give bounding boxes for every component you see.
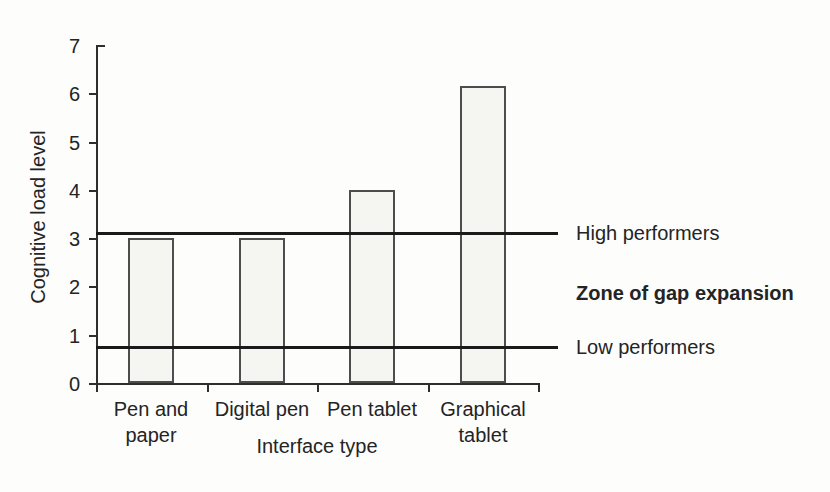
ref-line-low-performers [96, 346, 558, 349]
y-tick-4 [89, 190, 96, 192]
y-tick-label-3: 3 [44, 226, 80, 252]
ref-line-high-performers [96, 232, 558, 235]
plot-area: 01234567Pen and paperDigital penPen tabl… [0, 0, 830, 492]
y-tick-0 [89, 383, 96, 385]
x-tick-0 [96, 385, 98, 392]
y-tick-label-0: 0 [44, 371, 80, 397]
y-tick-3 [89, 238, 96, 240]
y-tick-label-5: 5 [44, 130, 80, 156]
y-tick-2 [89, 286, 96, 288]
cognitive-load-bar-chart: Cognitive load level 01234567Pen and pap… [0, 0, 830, 492]
y-tick-7 [98, 45, 105, 47]
ref-line-label-high-performers: High performers [576, 220, 816, 246]
bar-digital-pen [239, 238, 285, 383]
x-axis-title: Interface type [96, 433, 538, 459]
y-tick-6 [89, 93, 96, 95]
x-tick-2 [317, 385, 319, 392]
annotation-zone-of-gap-expansion: Zone of gap expansion [576, 280, 826, 306]
x-tick-4 [538, 385, 540, 392]
bar-pen-and-paper [128, 238, 174, 383]
x-tick-3 [428, 385, 430, 392]
y-axis-line [96, 45, 98, 385]
y-tick-label-4: 4 [44, 178, 80, 204]
bar-pen-tablet [349, 190, 395, 383]
y-tick-1 [89, 335, 96, 337]
y-tick-5 [89, 142, 96, 144]
y-tick-label-2: 2 [44, 274, 80, 300]
y-tick-label-6: 6 [44, 81, 80, 107]
y-tick-label-7: 7 [44, 33, 80, 59]
y-tick-label-1: 1 [44, 323, 80, 349]
x-tick-1 [207, 385, 209, 392]
ref-line-label-low-performers: Low performers [576, 334, 816, 360]
